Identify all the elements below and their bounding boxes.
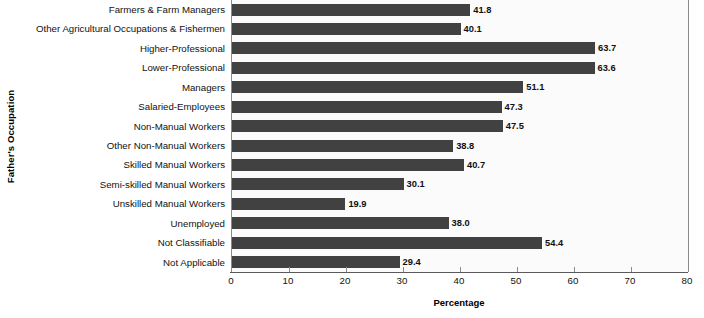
bar-row: 38.8: [232, 136, 688, 155]
bar-value-label: 38.8: [453, 139, 474, 153]
bar-value-label: 51.1: [523, 80, 544, 94]
x-axis-tick-label: 20: [340, 275, 351, 286]
category-label: Unemployed: [171, 214, 225, 233]
bar-value-label: 19.9: [345, 197, 366, 211]
category-label: Higher-Professional: [140, 39, 225, 58]
bar: [232, 140, 453, 152]
bar-row: 40.7: [232, 155, 688, 174]
bar-row: 38.0: [232, 214, 688, 233]
bar-value-label: 40.1: [461, 22, 482, 36]
bar: [232, 178, 404, 190]
bar-row: 30.1: [232, 175, 688, 194]
bar: [232, 120, 503, 132]
bar-value-label: 40.7: [464, 158, 485, 172]
category-label: Not Classifiable: [158, 233, 225, 252]
bar-row: 63.7: [232, 39, 688, 58]
x-axis-tick-label: 30: [397, 275, 408, 286]
bar-value-label: 41.8: [470, 3, 491, 17]
bar-row: 63.6: [232, 58, 688, 77]
bar-value-label: 30.1: [404, 177, 425, 191]
x-axis-tick-label: 10: [283, 275, 294, 286]
bar-row: 19.9: [232, 194, 688, 213]
bar-chart: Father's Occupation Farmers & Farm Manag…: [0, 0, 704, 318]
y-axis-title: Father's Occupation: [0, 0, 22, 272]
bar-value-label: 63.7: [595, 41, 616, 55]
x-axis-tick-label: 50: [511, 275, 522, 286]
bar: [232, 23, 461, 35]
category-label: Other Agricultural Occupations & Fisherm…: [36, 19, 225, 38]
category-label: Not Applicable: [163, 253, 225, 272]
bar: [232, 101, 502, 113]
bar: [232, 159, 464, 171]
bar-row: 41.8: [232, 0, 688, 19]
x-axis-tick-label: 60: [568, 275, 579, 286]
bar: [232, 256, 400, 268]
category-label: Lower-Professional: [142, 58, 225, 77]
x-axis-tick-label: 70: [625, 275, 636, 286]
bar: [232, 237, 542, 249]
bar-value-label: 38.0: [449, 216, 470, 230]
bar-row: 51.1: [232, 78, 688, 97]
x-axis-tick-label: 40: [454, 275, 465, 286]
bar: [232, 81, 523, 93]
plot-area: 41.840.163.763.651.147.347.538.840.730.1…: [231, 0, 689, 272]
x-axis-tick-label: 80: [682, 275, 693, 286]
category-label: Semi-skilled Manual Workers: [100, 175, 225, 194]
bar-row: 47.3: [232, 97, 688, 116]
bar-row: 54.4: [232, 233, 688, 252]
x-axis-tick-labels: 01020304050607080: [231, 275, 687, 291]
y-axis-title-label: Father's Occupation: [6, 89, 17, 182]
category-label: Salaried-Employees: [138, 97, 225, 116]
bar: [232, 62, 595, 74]
category-label: Other Non-Manual Workers: [107, 136, 225, 155]
bar-value-label: 54.4: [542, 236, 563, 250]
bar-value-label: 47.3: [502, 100, 523, 114]
x-axis-line: [230, 272, 688, 273]
bar: [232, 198, 345, 210]
bar-value-label: 63.6: [595, 61, 616, 75]
category-label: Farmers & Farm Managers: [109, 0, 225, 19]
category-axis-labels: Farmers & Farm ManagersOther Agricultura…: [22, 0, 228, 272]
category-label: Unskilled Manual Workers: [113, 194, 225, 213]
bar-row: 47.5: [232, 117, 688, 136]
category-label: Managers: [182, 78, 225, 97]
bar: [232, 217, 449, 229]
bar-value-label: 47.5: [503, 119, 524, 133]
category-label: Non-Manual Workers: [134, 117, 225, 136]
category-label: Skilled Manual Workers: [123, 155, 225, 174]
bar: [232, 4, 470, 16]
bar: [232, 42, 595, 54]
bar-row: 40.1: [232, 19, 688, 38]
x-axis-title: Percentage: [231, 297, 687, 308]
x-axis-tick-label: 0: [228, 275, 233, 286]
bars-container: 41.840.163.763.651.147.347.538.840.730.1…: [232, 0, 688, 272]
